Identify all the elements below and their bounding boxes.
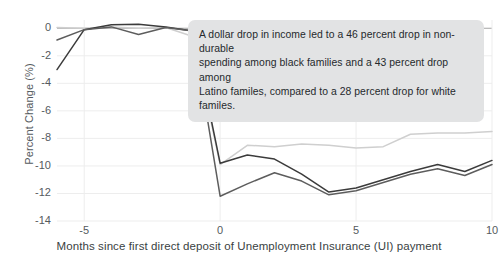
annotation-line-3: Latino familes, compared to a 28 percent…: [199, 85, 473, 113]
y-tick-label: -8: [9, 131, 51, 143]
annotation-pointer: [244, 71, 262, 82]
annotation-callout: A dollar drop in income led to a 46 perc…: [188, 20, 484, 122]
y-tick-label: -2: [9, 49, 51, 61]
annotation-line-2: spending among black families and a 43 p…: [199, 56, 473, 84]
y-tick-label: -12: [9, 186, 51, 198]
y-tick-label: -6: [9, 104, 51, 116]
y-tick-label: -10: [9, 159, 51, 171]
x-tick-label: 0: [190, 224, 250, 236]
x-tick-label: 10: [462, 224, 503, 236]
y-tick-label: 0: [9, 21, 51, 33]
annotation-line-1: A dollar drop in income led to a 46 perc…: [199, 28, 473, 56]
y-tick-label: -4: [9, 76, 51, 88]
x-tick-label: -5: [54, 224, 114, 236]
x-axis-label: Months since first direct deposit of Une…: [0, 240, 498, 252]
x-tick-label: 5: [326, 224, 386, 236]
y-tick-label: -14: [9, 214, 51, 226]
